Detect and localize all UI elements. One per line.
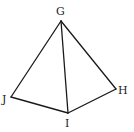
- edge-g-h: [61, 21, 116, 89]
- edge-g-j: [11, 21, 61, 97]
- vertex-label-g: G: [56, 5, 65, 18]
- vertex-label-j: J: [1, 93, 6, 106]
- edge-g-i: [61, 21, 68, 113]
- vertex-label-i: I: [65, 117, 69, 130]
- pyramid-diagram: G J I H: [0, 0, 134, 132]
- vertex-label-h: H: [118, 84, 128, 97]
- edge-i-h: [68, 89, 116, 113]
- edge-j-i: [11, 97, 68, 113]
